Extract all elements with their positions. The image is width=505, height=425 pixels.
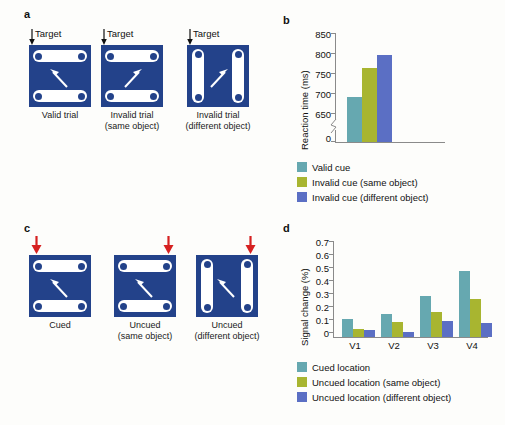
y-tick-label-b: 800 [305,49,331,60]
y-tick-label-d: 0.7 [303,237,329,248]
stimulus-box-c1 [29,255,91,317]
stimulus-box-a2 [101,45,163,107]
y-tick-label-d: 0.2 [303,302,329,313]
y-tick-label-b: 750 [305,69,331,80]
bar-d-v3-uncued-same [431,312,442,337]
chart-panel-b: Reaction time (ms) 850 800 750 700 650 0 [283,28,498,153]
endpoint-dot [120,303,127,310]
x-tick-label-v1: V1 [343,340,367,351]
stimulus-caption-c2-line1: Uncued [109,320,181,331]
y-tick-d [329,267,333,268]
y-tick-label-d: 0.6 [303,250,329,261]
target-arrow-down-red-icon-c3 [245,236,256,254]
bar-b-invalid-same [362,68,377,142]
x-axis-b [335,142,445,143]
legend-item-invalid-same-object: Invalid cue (same object) [297,176,429,188]
object-bar-horizontal-top [118,260,172,272]
object-bar-horizontal-bottom [33,90,87,102]
y-tick-label-d: 0.4 [303,276,329,287]
target-label-a2: Target [107,28,133,39]
object-bar-horizontal-top [33,260,87,272]
stimulus-box-c3 [196,255,258,317]
stimulus-caption-c2-line2: (same object) [109,331,181,342]
target-arrow-down-red-icon-c2 [163,236,174,254]
stimulus-caption-c3-line2: (different object) [183,331,271,342]
legend-swatch-blue [297,192,307,202]
endpoint-dot [78,263,85,270]
endpoint-dot [235,94,242,101]
legend-swatch-teal [297,162,307,172]
object-bar-horizontal-bottom [105,90,159,102]
legend-swatch-olive [297,377,307,387]
legend-label: Valid cue [312,162,350,173]
bar-d-v2-uncued-different [403,332,414,337]
target-label-a1: Target [35,28,61,39]
stimulus-caption-c3-line1: Uncued [191,320,263,331]
object-bar-horizontal-top [105,50,159,62]
stimulus-a-invalid-different-object: Target Invalid trial (different object) [187,45,262,132]
y-tick-d [329,254,333,255]
endpoint-dot [120,263,127,270]
chart-panel-d: Signal change (%) 0.7 0.6 0.5 0.4 0.3 0.… [283,236,503,356]
object-bar-vertical-right [241,259,253,313]
endpoint-dot [107,53,114,60]
bar-d-v1-cued [342,319,353,337]
x-axis-d [333,337,488,338]
endpoint-dot [235,51,242,58]
legend-swatch-olive [297,177,307,187]
bar-d-v4-uncued-different [481,323,492,337]
bar-d-v4-cued [459,271,470,337]
endpoint-dot [78,53,85,60]
bar-d-v1-uncued-same [353,329,364,337]
y-tick-label-b: 650 [305,109,331,120]
target-arrow-down-icon-a1 [28,29,36,45]
endpoint-dot [195,94,202,101]
object-bar-horizontal-bottom [118,300,172,312]
x-tick-label-v2: V2 [382,340,406,351]
legend-panel-b: Valid cue Invalid cue (same object) Inva… [297,161,429,206]
y-tick-label-b: 700 [305,89,331,100]
legend-label: Invalid cue (same object) [312,177,418,188]
y-tick-label-d: 0.1 [303,315,329,326]
endpoint-dot [78,303,85,310]
bar-b-valid-cue [347,97,362,142]
y-tick-label-b: 850 [305,29,331,40]
stimulus-c-uncued-different-object: Uncued (different object) [196,255,271,342]
y-tick-d [329,319,333,320]
endpoint-dot [35,53,42,60]
target-arrow-down-icon-a2 [100,29,108,45]
endpoint-dot [244,304,251,311]
legend-label: Cued location [312,362,370,373]
endpoint-dot [204,304,211,311]
plot-area-b [335,28,445,142]
legend-swatch-teal [297,362,307,372]
object-bar-vertical-left [201,259,213,313]
stimulus-caption-c1: Cued [24,320,96,331]
endpoint-dot [35,263,42,270]
endpoint-dot [107,93,114,100]
endpoint-dot [150,53,157,60]
y-tick-label-d: 0.3 [303,289,329,300]
bar-d-v1-uncued-different [364,330,375,337]
stimulus-a-valid-trial: Target Valid trial [29,45,96,121]
object-bar-vertical-left [192,49,204,103]
stimulus-a-invalid-same-object: Target Invalid trial (same object) [101,45,168,132]
endpoint-dot [78,93,85,100]
legend-swatch-blue [297,392,307,402]
legend-label: Uncued location (same object) [312,377,440,388]
stimulus-c-uncued-same-object: Uncued (same object) [114,255,181,342]
y-tick-d [329,280,333,281]
panel-label-a: a [24,8,30,20]
target-arrow-down-icon-a3 [186,29,194,45]
stimulus-box-a3 [187,45,249,107]
x-tick-label-v3: V3 [421,340,445,351]
y-tick-d [329,306,333,307]
stimulus-box-a1 [29,45,91,107]
bar-d-v2-uncued-same [392,322,403,337]
stimulus-caption-a1: Valid trial [24,110,96,121]
legend-item-cued-location: Cued location [297,361,451,373]
stimulus-caption-a2-line2: (same object) [96,121,168,132]
legend-item-uncued-same-object: Uncued location (same object) [297,376,451,388]
endpoint-dot [204,261,211,268]
stimulus-c-cued: Cued [29,255,96,331]
